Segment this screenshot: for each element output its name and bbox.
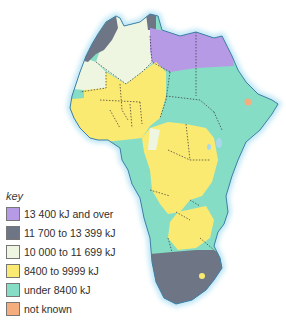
key-item-under-8400: under 8400 kJ — [6, 280, 115, 299]
lesotho — [199, 273, 205, 279]
key-item-11700-13399: 11 700 to 13 399 kJ — [6, 223, 115, 242]
swatch-yellow — [6, 264, 20, 278]
key-item-13400-over: 13 400 kJ and over — [6, 204, 115, 223]
key-item-8400-9999: 8400 to 9999 kJ — [6, 261, 115, 280]
key-item-not-known: not known — [6, 299, 115, 318]
region-djibouti — [245, 99, 252, 106]
swatch-pale-green — [6, 245, 20, 259]
swatch-orange — [6, 302, 20, 316]
lake — [207, 144, 211, 150]
key-title: key — [6, 190, 115, 202]
key-item-10000-11699: 10 000 to 11 699 kJ — [6, 242, 115, 261]
lake — [216, 138, 222, 148]
swatch-teal — [6, 283, 20, 297]
swatch-purple — [6, 207, 20, 221]
map-key: key 13 400 kJ and over 11 700 to 13 399 … — [6, 190, 115, 318]
swatch-dark-grey — [6, 226, 20, 240]
